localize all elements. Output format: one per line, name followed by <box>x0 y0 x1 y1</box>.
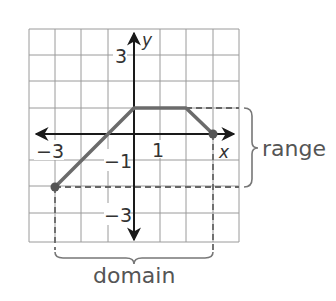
left-endpoint <box>51 183 60 192</box>
coordinate-plane-figure: 3 y −3 1 x −1 −3 range domain <box>0 0 336 301</box>
range-brace <box>244 108 258 187</box>
y-tick-neg3: −3 <box>104 204 132 226</box>
y-tick-neg1: −1 <box>104 150 132 172</box>
x-tick-neg3: −3 <box>36 140 64 162</box>
y-axis-label: y <box>141 30 153 50</box>
x-axis-label: x <box>218 142 230 162</box>
y-tick-3: 3 <box>115 45 127 67</box>
dashed-guides <box>55 108 239 250</box>
domain-label: domain <box>93 263 175 288</box>
right-endpoint <box>209 130 218 139</box>
x-tick-1: 1 <box>152 139 164 161</box>
axes <box>36 33 234 240</box>
range-label: range <box>262 136 326 161</box>
